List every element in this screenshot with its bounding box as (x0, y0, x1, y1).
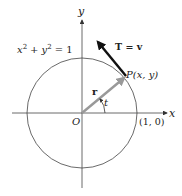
eq-plus: + (30, 44, 38, 55)
circle-equation: x2+y2= 1 (17, 43, 73, 55)
tangent-label: T = v (115, 41, 143, 52)
eq-rhs: = 1 (55, 44, 73, 55)
eq-sup2: 2 (47, 43, 51, 51)
point-p-label: P(x, y) (125, 69, 158, 80)
unit-point-label: (1, 0) (139, 116, 165, 127)
position-vector-label: r (92, 86, 98, 97)
angle-label: t (104, 97, 109, 108)
y-axis-label: y (77, 5, 85, 18)
unit-circle-diagram: y x O (1, 0) P(x, y) T = v r t x2+y2= 1 (0, 0, 182, 196)
eq-sup1: 2 (23, 43, 27, 51)
origin-label: O (72, 116, 80, 127)
position-vector-r (82, 78, 124, 113)
x-axis-label: x (169, 107, 176, 120)
